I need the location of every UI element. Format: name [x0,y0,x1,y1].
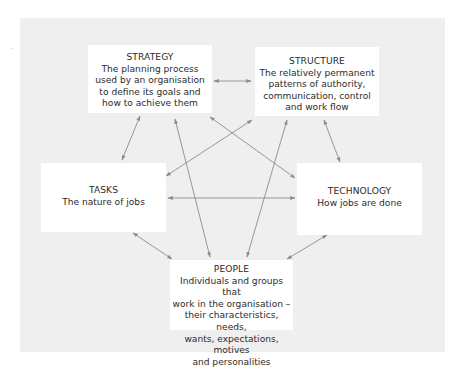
structure-description: The relatively permanent patterns of aut… [260,68,375,114]
arrow-structure-people [247,120,287,257]
arrow-technology-people [287,235,327,259]
technology-description: How jobs are done [317,198,402,210]
tasks-box: TASKS The nature of jobs [41,163,166,232]
people-box: PEOPLE Individuals and groups that work … [170,260,293,330]
tasks-title: TASKS [89,185,118,197]
arrow-strategy-tasks [122,116,140,160]
strategy-box: STRATEGY The planning process used by an… [88,45,212,113]
people-title: PEOPLE [214,264,249,276]
arrow-strategy-technology [210,117,295,178]
structure-title: STRUCTURE [289,56,345,68]
tasks-description: The nature of jobs [62,197,145,209]
arrow-tasks-people [133,233,172,259]
arrow-structure-tasks [166,120,252,176]
technology-title: TECHNOLOGY [328,186,392,198]
people-description: Individuals and groups that work in the … [170,276,293,369]
strategy-title: STRATEGY [126,52,173,64]
arrow-structure-technology [324,120,340,162]
technology-box: TECHNOLOGY How jobs are done [297,163,422,235]
arrow-strategy-people [175,119,210,257]
structure-box: STRUCTURE The relatively permanent patte… [255,47,379,116]
strategy-description: The planning process used by an organisa… [95,64,205,110]
